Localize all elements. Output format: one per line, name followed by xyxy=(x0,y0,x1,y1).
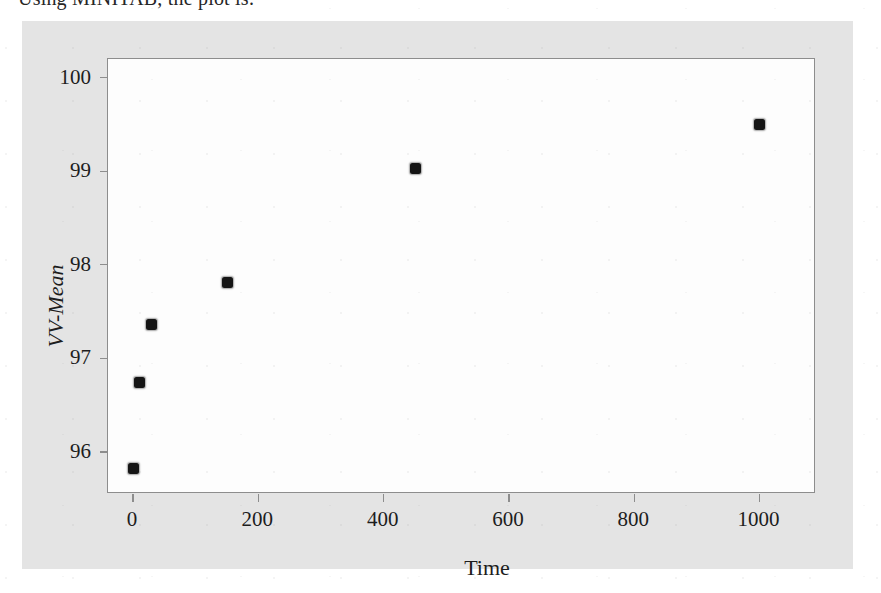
y-tick-mark xyxy=(100,451,108,452)
x-tick-mark xyxy=(258,494,259,502)
y-tick-mark xyxy=(100,171,108,172)
figure-panel: VV-Mean Time 96979899100 020040060080010… xyxy=(22,21,853,569)
data-point xyxy=(754,119,765,130)
data-point xyxy=(410,163,421,174)
data-point xyxy=(222,277,233,288)
x-tick-label: 800 xyxy=(618,507,650,532)
y-tick-label: 100 xyxy=(60,64,92,89)
y-tick-label: 97 xyxy=(70,345,91,370)
x-axis-title: Time xyxy=(464,555,510,581)
x-tick-mark xyxy=(634,494,635,502)
x-tick-mark xyxy=(508,494,509,502)
y-tick-label: 99 xyxy=(70,158,91,183)
y-tick-mark xyxy=(100,358,108,359)
x-tick-label: 400 xyxy=(367,507,399,532)
plot-data-area xyxy=(108,59,814,492)
plot-frame xyxy=(107,58,815,493)
y-tick-label: 96 xyxy=(70,438,91,463)
x-tick-label: 0 xyxy=(127,507,138,532)
x-tick-mark xyxy=(132,494,133,502)
x-tick-mark xyxy=(759,494,760,502)
data-point xyxy=(128,463,139,474)
y-tick-label: 98 xyxy=(70,251,91,276)
data-point xyxy=(134,377,145,388)
x-tick-mark xyxy=(383,494,384,502)
figure-caption: Using MINITAB, the plot is: xyxy=(18,0,255,10)
y-tick-mark xyxy=(100,264,108,265)
x-tick-label: 1000 xyxy=(738,507,780,532)
x-tick-label: 600 xyxy=(492,507,524,532)
y-axis-title: VV-Mean xyxy=(43,264,69,347)
y-tick-mark xyxy=(100,77,108,78)
x-tick-label: 200 xyxy=(242,507,274,532)
data-point xyxy=(146,319,157,330)
